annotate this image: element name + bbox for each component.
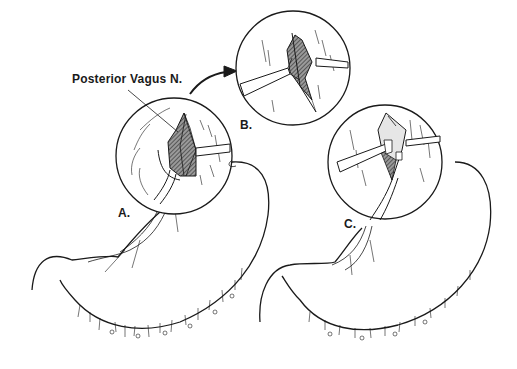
panel-b-circle [236, 11, 350, 125]
panel-a-label: A. [118, 206, 130, 220]
panel-c-label: C. [344, 217, 356, 231]
panel-b-label: B. [240, 118, 252, 132]
panel-c-circle [328, 105, 442, 220]
arrow-a-to-b [190, 66, 237, 94]
illustration-drawing [0, 0, 517, 369]
surgical-illustration: Posterior Vagus N. A. B. C. [0, 0, 517, 369]
posterior-vagus-nerve-label: Posterior Vagus N. [72, 72, 182, 86]
panel-a-circle [116, 98, 236, 214]
